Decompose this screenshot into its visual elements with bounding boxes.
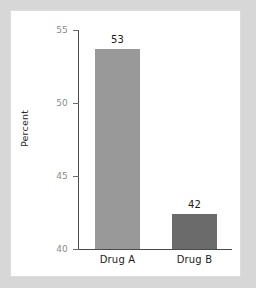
y-tick-mark-45 xyxy=(73,176,79,177)
figure-root: Percent 55 50 45 40 53 42 Drug A Drug B xyxy=(0,0,256,288)
y-tick-label-40: 40 xyxy=(28,245,68,254)
y-tick-label-55: 55 xyxy=(28,26,68,35)
y-tick-mark-40 xyxy=(73,249,79,250)
x-tick-label-drug-b: Drug B xyxy=(166,255,223,265)
bar-drug-b[interactable] xyxy=(172,214,217,249)
x-axis-line xyxy=(78,249,232,250)
bar-value-label-drug-b: 42 xyxy=(172,200,217,210)
x-tick-label-drug-a: Drug A xyxy=(89,255,146,265)
bar-drug-a[interactable] xyxy=(95,49,140,249)
chart-panel: Percent 55 50 45 40 53 42 Drug A Drug B xyxy=(11,11,240,276)
y-tick-label-50: 50 xyxy=(28,99,68,108)
plot-area: Percent 55 50 45 40 53 42 Drug A Drug B xyxy=(11,11,240,276)
y-tick-mark-50 xyxy=(73,103,79,104)
bar-value-label-drug-a: 53 xyxy=(95,35,140,45)
y-tick-label-45: 45 xyxy=(28,172,68,181)
y-axis-line xyxy=(78,30,79,250)
y-tick-mark-55 xyxy=(73,30,79,31)
